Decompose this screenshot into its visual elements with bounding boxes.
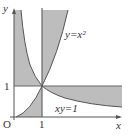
shaded-region-lower-left <box>16 86 42 117</box>
x-axis-label: x <box>115 119 121 131</box>
origin-label: O <box>3 118 11 130</box>
y-axis-label: y <box>2 2 8 14</box>
shaded-region-upper-left <box>14 10 42 86</box>
shaded-region-lower-right <box>42 86 122 107</box>
region-diagram: y x O 1 1 y=x² xy=1 <box>0 0 134 135</box>
hyperbola-label: xy=1 <box>54 102 78 114</box>
y-tick-1: 1 <box>4 80 10 92</box>
x-tick-1: 1 <box>39 118 45 130</box>
parabola-label: y=x² <box>64 28 86 40</box>
shaded-region-upper-right <box>42 10 68 86</box>
